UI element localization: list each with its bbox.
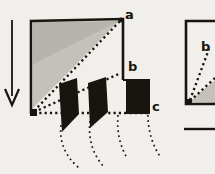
corner-dot-bottom-left: [30, 109, 37, 116]
right-shaded-wedge: [189, 80, 215, 103]
label-c: c: [152, 99, 160, 114]
down-arrow-icon: [5, 20, 19, 105]
right-square-figure: b: [184, 21, 215, 129]
motion-trail-3: [118, 115, 127, 158]
corner-dot-top-right: [119, 18, 124, 23]
flap-1: [59, 78, 79, 132]
folding-diagram: a b c b: [0, 0, 215, 174]
flap-3: [126, 81, 150, 114]
motion-trail-4: [148, 115, 161, 158]
label-a: a: [125, 7, 134, 22]
main-square-figure: a b c: [30, 7, 161, 168]
right-corner-dot: [186, 99, 192, 105]
motion-trail-1: [61, 125, 79, 168]
flap-2: [88, 77, 108, 128]
motion-trail-2: [90, 121, 104, 167]
label-b: b: [128, 59, 137, 74]
right-label-b: b: [201, 39, 210, 54]
folding-diagram-canvas: a b c b: [0, 0, 215, 174]
